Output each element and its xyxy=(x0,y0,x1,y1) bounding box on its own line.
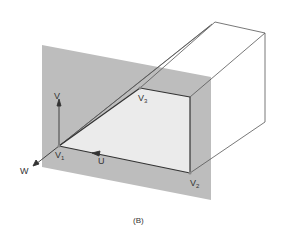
w-axis-label: W xyxy=(20,166,29,176)
w-arrow-icon xyxy=(33,160,39,166)
v2-point xyxy=(189,172,192,175)
figure-caption: (B) xyxy=(133,216,144,225)
diagram: V U W V1 V2 V3 (B) xyxy=(0,0,281,233)
u-axis-label: U xyxy=(98,156,105,166)
v-axis-label: V xyxy=(54,91,60,101)
v1-point xyxy=(58,145,61,148)
v3-point xyxy=(139,87,142,90)
